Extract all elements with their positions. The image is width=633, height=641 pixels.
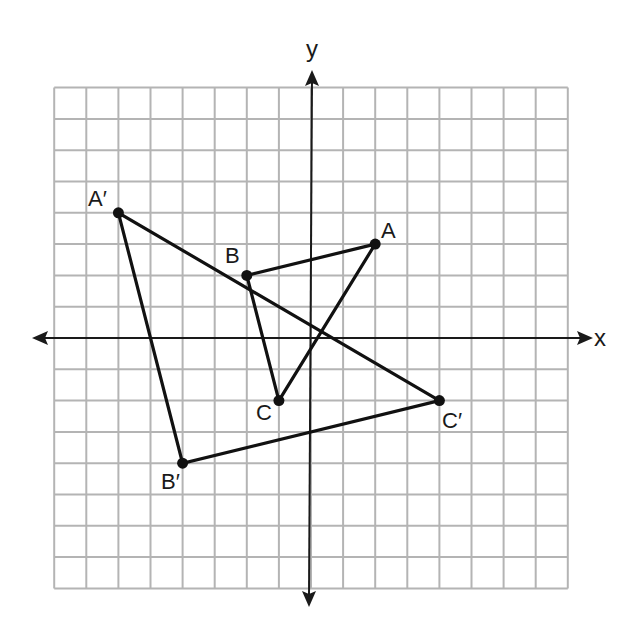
y-axis-label: y	[306, 35, 318, 62]
vertex-point	[370, 239, 381, 250]
label-a: A	[381, 218, 396, 243]
vertex-point	[113, 207, 124, 218]
label-c-prime: C′	[442, 408, 462, 433]
vertex-labels: A B C A′ B′ C′	[88, 186, 462, 494]
vertex-point	[177, 458, 188, 469]
vertex-point	[273, 395, 284, 406]
label-b: B	[225, 243, 240, 268]
label-c: C	[256, 400, 272, 425]
coordinate-plane: x y A B C A′ B′ C′	[0, 0, 633, 641]
vertex-point	[434, 395, 445, 406]
label-b-prime: B′	[161, 469, 180, 494]
label-a-prime: A′	[88, 186, 107, 211]
vertex-point	[241, 270, 252, 281]
x-axis-label: x	[594, 324, 606, 351]
